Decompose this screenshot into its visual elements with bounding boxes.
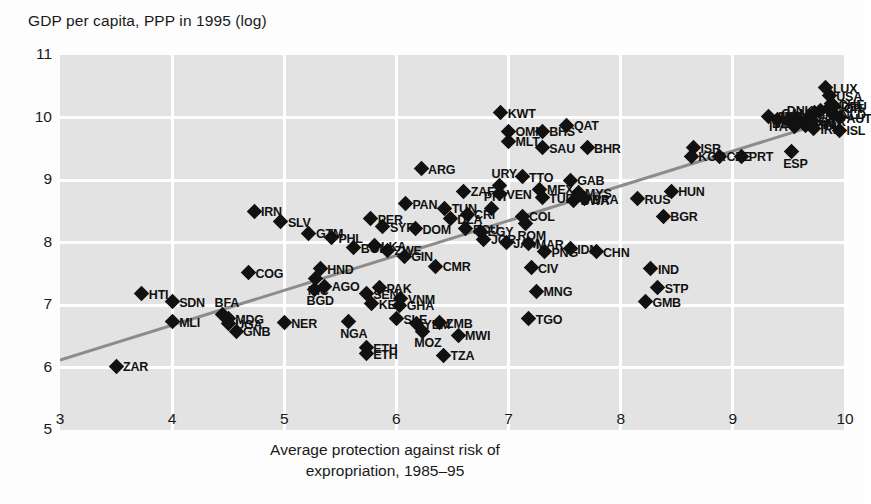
data-point-label: PRT [749, 151, 773, 164]
data-point-label: HND [327, 264, 353, 277]
data-point-label: BRA [592, 194, 618, 207]
data-point-label: AGO [332, 281, 360, 294]
data-point-label: MOZ [414, 337, 441, 350]
x-tick-label: 4 [152, 410, 192, 428]
x-tick-label: 5 [264, 410, 304, 428]
x-tick-label: 10 [825, 410, 865, 428]
plot-area: ZARHTISDNMLIBFAMDGUGAGNBIRNCOGSLVNERGTMB… [60, 55, 845, 430]
x-axis-ticks: 345678910 [60, 410, 870, 434]
data-point-label: MWI [465, 330, 490, 343]
data-point-label: GMB [652, 297, 681, 310]
data-point-label: IND [658, 264, 679, 277]
data-point-label: SDN [179, 297, 205, 310]
data-point-label: ARG [428, 164, 455, 177]
regression-line [60, 55, 845, 430]
data-point-label: GIN [411, 251, 433, 264]
data-point-label: ISL [846, 125, 865, 138]
y-tick-label: 8 [6, 233, 52, 251]
data-point-label: PAN [412, 199, 437, 212]
data-point-label: DOM [422, 224, 451, 237]
data-point-label: CIV [538, 263, 558, 276]
y-tick-label: 7 [6, 295, 52, 313]
x-tick-label: 7 [489, 410, 529, 428]
y-tick-label: 9 [6, 170, 52, 188]
x-axis-label-line2: expropriation, 1985–95 [0, 461, 817, 482]
data-point-label: TZA [451, 350, 475, 363]
x-tick-label: 3 [40, 410, 80, 428]
y-axis-label: GDP per capita, PPP in 1995 (log) [28, 12, 267, 30]
data-point-label: COL [529, 211, 555, 224]
data-point-label: STP [665, 283, 689, 296]
y-tick-label: 10 [6, 108, 52, 126]
data-point-label: BHR [594, 143, 620, 156]
data-point-label: DEU [841, 101, 867, 114]
y-axis-ticks: 567891011 [0, 0, 52, 504]
data-point-label: ZAR [123, 361, 148, 374]
data-point-label: HUN [678, 186, 704, 199]
data-point-label: BGR [670, 211, 697, 224]
x-axis-label-line1: Average protection against risk of [0, 440, 817, 461]
x-axis-label: Average protection against risk of expro… [0, 440, 864, 482]
data-point-label: VEN [507, 189, 532, 202]
data-point-label: NER [291, 318, 317, 331]
data-point-label: VNM [408, 294, 435, 307]
data-point-label: MNG [544, 286, 573, 299]
x-tick-label: 8 [601, 410, 641, 428]
data-point-label: ETH [373, 349, 397, 362]
x-tick-label: 6 [376, 410, 416, 428]
data-point-label: BFA [215, 297, 239, 310]
data-point-label: KWT [508, 108, 536, 121]
data-point-label: NGA [340, 328, 367, 341]
data-point-label: SAU [549, 143, 575, 156]
y-tick-label: 6 [6, 358, 52, 376]
data-point-label: GNB [243, 326, 270, 339]
data-point-label: CHN [603, 247, 629, 260]
data-point-label: ITA [769, 121, 788, 134]
y-tick-label: 11 [6, 45, 52, 63]
data-point-label: QAT [574, 120, 599, 133]
data-point-label: ESP [783, 158, 807, 171]
data-point-label: TGO [536, 314, 562, 327]
data-point-label: GAB [577, 175, 604, 188]
data-point-label: COG [255, 268, 283, 281]
data-point-label: RUS [645, 194, 671, 207]
data-point-label: CMR [443, 261, 471, 274]
data-point-label: URY [492, 168, 517, 181]
x-tick-label: 9 [713, 410, 753, 428]
data-point-label: MLI [179, 317, 200, 330]
